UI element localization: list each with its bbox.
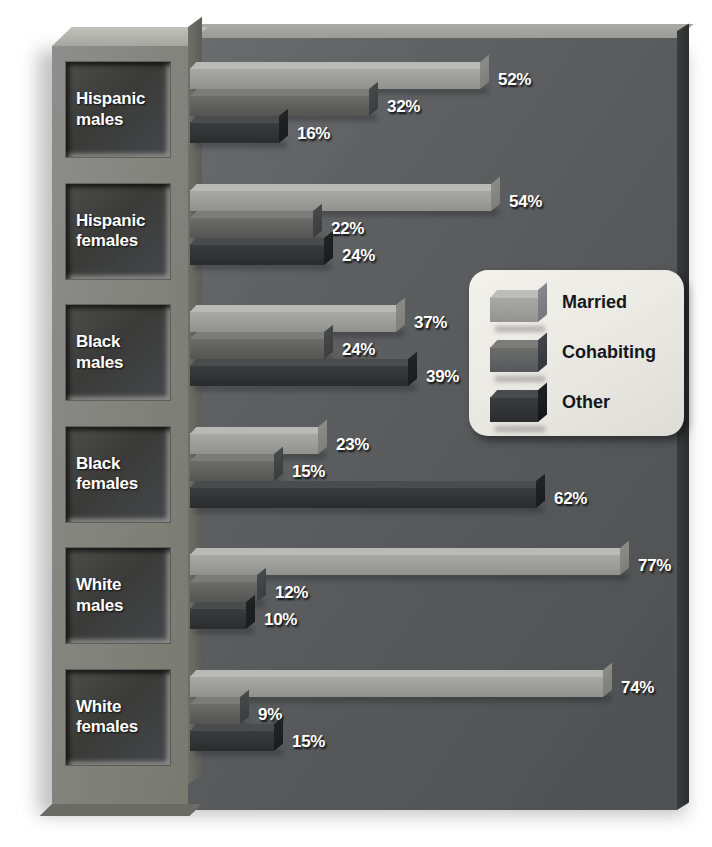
bar-front-face	[190, 730, 274, 751]
legend-swatch-top	[490, 290, 545, 298]
chart-canvas: HispanicmalesHispanicfemalesBlackmalesBl…	[0, 0, 712, 847]
bar-top-face	[190, 332, 330, 339]
bar-front-face	[190, 338, 324, 359]
bar-value-label: 54%	[509, 192, 542, 212]
bar-top-face	[190, 724, 280, 731]
bar-black-females-married	[190, 427, 318, 454]
bar-hispanic-males-cohabiting	[190, 89, 369, 116]
category-label-text: Whitemales	[76, 575, 123, 615]
bar-front-face	[190, 190, 491, 211]
category-label-black-females: Blackfemales	[66, 427, 170, 522]
bar-black-females-cohabiting	[190, 454, 274, 481]
legend-label-text: Other	[562, 392, 610, 413]
bar-white-females-other	[190, 724, 274, 751]
bar-value-label: 15%	[292, 462, 325, 482]
legend-swatch-front	[490, 347, 538, 372]
legend-item-married[interactable]: Married	[490, 282, 670, 322]
bar-top-face	[190, 184, 497, 191]
bar-top-face	[190, 62, 486, 69]
category-label-text: Blackmales	[76, 332, 123, 372]
bar-front-face	[190, 608, 246, 629]
bar-top-face	[190, 305, 402, 312]
label-column-bottom-edge	[40, 804, 202, 816]
bar-value-label: 22%	[331, 219, 364, 239]
bar-value-label: 23%	[336, 435, 369, 455]
bar-top-face	[190, 602, 252, 609]
category-label-hispanic-males: Hispanicmales	[66, 62, 170, 157]
bar-black-females-other	[190, 481, 536, 508]
category-label-text: Whitefemales	[76, 697, 138, 737]
bar-front-face	[190, 433, 318, 454]
bar-front-face	[190, 311, 396, 332]
category-label-white-males: Whitemales	[66, 548, 170, 643]
bar-value-label: 37%	[414, 313, 447, 333]
bar-value-label: 52%	[498, 70, 531, 90]
bar-value-label: 16%	[297, 124, 330, 144]
bar-front-face	[190, 581, 257, 602]
legend-item-cohabiting[interactable]: Cohabiting	[490, 332, 670, 372]
bar-front-face	[190, 217, 313, 238]
bar-top-face	[190, 116, 285, 123]
category-label-text: Hispanicmales	[76, 89, 145, 129]
bar-top-face	[190, 670, 609, 677]
bar-hispanic-males-other	[190, 116, 279, 143]
legend-swatch-top	[490, 340, 545, 348]
category-label-black-males: Blackmales	[66, 305, 170, 400]
category-label-white-females: Whitefemales	[66, 670, 170, 765]
bar-front-face	[190, 95, 369, 116]
legend-swatch-side	[538, 282, 547, 322]
bar-value-label: 10%	[264, 610, 297, 630]
bar-top-face	[190, 575, 263, 582]
bar-white-females-cohabiting	[190, 697, 240, 724]
legend-swatch-other	[490, 390, 546, 420]
bar-value-label: 24%	[342, 246, 375, 266]
bar-hispanic-females-married	[190, 184, 491, 211]
bar-front-face	[190, 554, 620, 575]
label-column-top-bevel	[52, 27, 208, 46]
legend-swatch-married	[490, 290, 546, 320]
category-label-text: Blackfemales	[76, 454, 138, 494]
legend-swatch-top	[490, 390, 545, 398]
bar-top-face	[190, 481, 542, 488]
bar-value-label: 39%	[426, 367, 459, 387]
bar-top-face	[190, 238, 330, 245]
bar-top-face	[190, 89, 375, 96]
plot-panel-top-bevel	[180, 24, 694, 39]
chart-legend: MarriedCohabitingOther	[469, 270, 684, 436]
bar-value-label: 77%	[638, 556, 671, 576]
bar-front-face	[190, 68, 480, 89]
bar-top-face	[190, 454, 280, 461]
bar-front-face	[190, 460, 274, 481]
bar-value-label: 12%	[275, 583, 308, 603]
bar-value-label: 62%	[554, 489, 587, 509]
legend-label-text: Cohabiting	[562, 342, 656, 363]
bar-front-face	[190, 365, 408, 386]
legend-item-other[interactable]: Other	[490, 382, 670, 422]
bar-white-females-married	[190, 670, 603, 697]
legend-swatch-side	[538, 382, 547, 422]
bar-top-face	[190, 548, 626, 555]
legend-swatch-front	[490, 397, 538, 422]
bar-hispanic-males-married	[190, 62, 480, 89]
category-label-text: Hispanicfemales	[76, 211, 145, 251]
legend-label-text: Married	[562, 292, 627, 313]
bar-top-face	[190, 697, 246, 704]
bar-white-males-married	[190, 548, 620, 575]
bar-black-males-married	[190, 305, 396, 332]
bar-value-label: 24%	[342, 340, 375, 360]
bar-front-face	[190, 703, 240, 724]
bar-front-face	[190, 122, 279, 143]
bar-top-face	[190, 359, 414, 366]
bar-front-face	[190, 676, 603, 697]
bar-top-face	[190, 427, 324, 434]
category-label-column: HispanicmalesHispanicfemalesBlackmalesBl…	[52, 46, 188, 804]
bar-value-label: 32%	[387, 97, 420, 117]
bar-front-face	[190, 487, 536, 508]
bar-black-males-other	[190, 359, 408, 386]
bar-white-males-other	[190, 602, 246, 629]
legend-swatch-shadow	[495, 426, 545, 432]
bar-front-face	[190, 244, 324, 265]
bar-white-males-cohabiting	[190, 575, 257, 602]
legend-swatch-side	[538, 332, 547, 372]
bar-black-males-cohabiting	[190, 332, 324, 359]
